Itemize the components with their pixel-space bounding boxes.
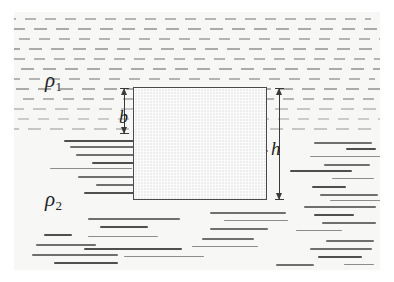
fluid-lower-stroke [296,230,342,231]
rho2-subscript: 2 [56,198,63,213]
fluid-lower-stroke [290,170,352,172]
fluid-upper-dash-row [21,68,380,70]
fluid-upper-dash-row [19,38,380,40]
fluid-lower-stroke [318,256,362,258]
rho2-symbol: ρ [45,187,55,211]
rho1-symbol: ρ [45,68,55,92]
fluid-lower-stroke [192,246,258,247]
fluid-lower-stroke [314,142,372,144]
dimension-b-bottom-cap [120,133,129,134]
fluid-lower-stroke [202,238,254,240]
fluid-lower-stroke [310,248,372,250]
fluid-lower-stroke [88,218,180,220]
figure-canvas: b h ρ1 ρ2 [0,0,394,282]
fluid-lower-stroke [310,156,380,157]
fluid-upper-dash-row [14,58,380,60]
dimension-b-up-arrowhead [121,88,127,95]
dimension-h-bottom-cap [275,199,284,200]
fluid-lower-stroke [36,244,96,246]
fluid-lower-stroke [210,228,268,230]
fluid-lower-stroke [326,240,374,242]
fluid-lower-stroke [100,226,148,228]
fluid-lower-stroke [312,186,346,188]
fluid-upper-dash-row [14,78,375,80]
rho1-subscript: 1 [56,79,63,94]
fluid-lower-stroke [332,178,374,179]
fluid-lower-stroke [276,264,314,266]
fluid-lower-stroke [64,140,136,142]
fluid-lower-stroke [84,248,182,250]
lower-fluid-density-label: ρ2 [45,189,62,212]
fluid-lower-stroke [124,256,204,257]
floating-block [133,87,267,200]
dimension-h-label: h [271,139,281,158]
fluid-lower-stroke [322,222,376,224]
fluid-lower-stroke [50,168,132,169]
fluid-lower-stroke [44,234,72,236]
fluid-upper-dash-row [14,18,371,20]
fluid-lower-stroke [314,214,354,216]
fluid-lower-stroke [224,220,288,221]
upper-fluid-density-label: ρ1 [45,70,62,93]
fluid-lower-stroke [304,206,376,208]
dimension-b-label: b [119,108,128,126]
fluid-lower-stroke [54,262,118,264]
fluid-lower-stroke [346,148,376,150]
fluid-upper-dash-row [14,48,373,50]
dimension-h-up-arrowhead [276,88,282,95]
fluid-lower-stroke [210,212,286,214]
fluid-lower-stroke [324,164,370,166]
fluid-upper-dash-row [14,28,378,30]
fluid-lower-stroke [330,200,380,201]
fluid-lower-stroke [344,264,374,265]
fluid-lower-stroke [88,236,158,237]
fluid-lower-stroke [32,254,118,256]
fluid-lower-stroke [320,194,378,196]
